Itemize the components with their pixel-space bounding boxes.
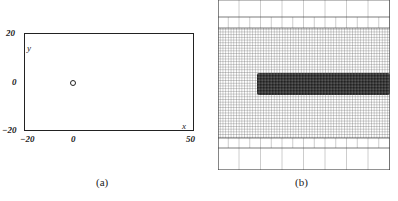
y-axis-label: y [27, 43, 31, 53]
y-tick-0: 0 [12, 77, 17, 87]
x-axis-label: x [182, 121, 186, 131]
mesh-grid [218, 0, 390, 170]
x-tick-50: 50 [186, 134, 195, 144]
x-tick-neg20: −20 [20, 134, 34, 144]
plot-frame [24, 33, 194, 131]
x-tick-0: 0 [71, 134, 76, 144]
caption-b: (b) [295, 176, 308, 188]
circle-marker [70, 80, 76, 86]
y-tick-20: 20 [6, 28, 15, 38]
caption-a: (a) [96, 176, 108, 188]
y-tick-neg20: −20 [2, 125, 16, 135]
